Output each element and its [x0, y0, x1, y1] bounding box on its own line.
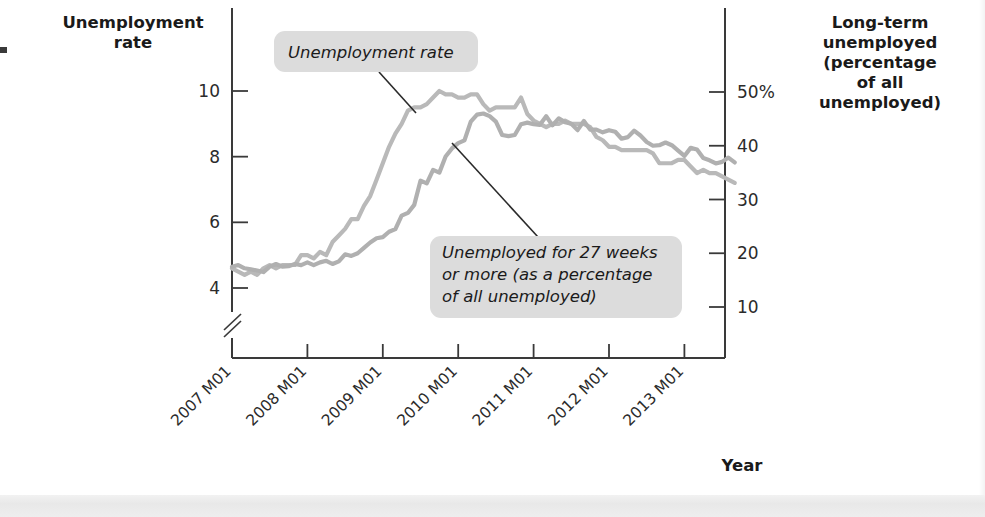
chart-page: Unemployment rate Long-term unemployed (… — [0, 0, 985, 517]
x-tick-label: 2009 M01 — [318, 362, 386, 430]
callout-label-long-term-line2: or more (as a percentage — [442, 265, 653, 284]
leader-line-unemployment-rate — [379, 72, 416, 113]
callout-label-unemployment-rate: Unemployment rate — [288, 43, 454, 62]
right-axis-title-line5: unemployed) — [819, 93, 941, 112]
callout-label-long-term-line1: Unemployed for 27 weeks — [442, 243, 658, 262]
x-tick-label: 2010 M01 — [394, 362, 462, 430]
left-tick-label: 6 — [209, 212, 220, 232]
left-tick-label: 10 — [198, 81, 220, 101]
left-tick-label: 4 — [209, 278, 220, 298]
axis-break-icon — [224, 312, 241, 338]
right-axis-title-line3: (percentage — [823, 53, 936, 72]
right-axis-title-line1: Long-term — [832, 13, 929, 32]
right-tick-label: 50% — [737, 82, 775, 102]
x-tick-label: 2013 M01 — [620, 362, 688, 430]
x-axis-ticks: 2007 M012008 M012009 M012010 M012011 M01… — [167, 344, 687, 430]
right-axis-ticks: 50%40302010 — [709, 82, 775, 317]
right-axis-title-line4: of all — [857, 73, 904, 92]
right-axis-title-line2: unemployed — [823, 33, 937, 52]
x-tick-label: 2007 M01 — [167, 362, 235, 430]
right-tick-label: 30 — [737, 190, 759, 210]
left-axis-title-line2: rate — [114, 33, 152, 52]
unemployment-rate-annotation: Unemployment rate — [274, 31, 478, 113]
unemployment-chart: Unemployment rate Long-term unemployed (… — [0, 0, 985, 517]
x-axis-title: Year — [721, 456, 764, 475]
x-tick-label: 2011 M01 — [469, 362, 537, 430]
leader-line-long-term-unemployed — [452, 143, 538, 237]
right-axis-title: Long-term unemployed (percentage of all … — [819, 13, 941, 112]
long-term-unemployed-annotation: Unemployed for 27 weeks or more (as a pe… — [430, 143, 682, 318]
right-tick-label: 20 — [737, 243, 759, 263]
callout-label-long-term-line3: of all unemployed) — [442, 287, 597, 306]
left-axis-title-line1: Unemployment — [62, 13, 203, 32]
left-axis-title: Unemployment rate — [62, 13, 203, 52]
right-tick-label: 10 — [737, 297, 759, 317]
right-tick-label: 40 — [737, 136, 759, 156]
x-tick-label: 2008 M01 — [243, 362, 311, 430]
left-tick-label: 8 — [209, 147, 220, 167]
x-tick-label: 2012 M01 — [544, 362, 612, 430]
